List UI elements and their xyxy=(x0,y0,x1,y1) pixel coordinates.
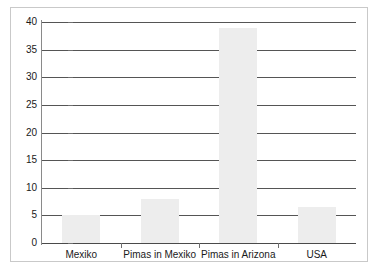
y-axis-tick-label: 0 xyxy=(31,238,37,248)
gridline xyxy=(42,133,356,134)
x-axis-category-label: Mexiko xyxy=(42,249,121,260)
plot-area: 0510152025303540 xyxy=(42,22,356,243)
y-axis-tick xyxy=(68,50,73,51)
y-axis-tick-label: 30 xyxy=(26,72,37,82)
bar xyxy=(219,28,257,243)
chart-figure: 0510152025303540 MexikoPimas in MexikoPi… xyxy=(10,7,368,262)
y-axis-tick-label: 5 xyxy=(31,210,37,220)
x-axis-category-label: Pimas in Mexiko xyxy=(121,249,200,260)
y-axis-tick-label: 15 xyxy=(26,155,37,165)
y-axis-tick xyxy=(68,160,73,161)
x-axis-category-label: USA xyxy=(278,249,357,260)
x-axis-tick xyxy=(278,243,279,248)
y-axis-tick xyxy=(68,77,73,78)
bar xyxy=(141,199,179,243)
y-axis-tick xyxy=(68,22,73,23)
x-axis-category-label: Pimas in Arizona xyxy=(199,249,278,260)
y-axis-tick-label: 25 xyxy=(26,100,37,110)
gridline xyxy=(42,105,356,106)
gridline xyxy=(42,77,356,78)
y-axis-tick-label: 20 xyxy=(26,128,37,138)
gridline xyxy=(42,22,356,23)
y-axis-tick-label: 10 xyxy=(26,183,37,193)
gridline xyxy=(42,188,356,189)
bar xyxy=(298,207,336,243)
x-axis-categories: MexikoPimas in MexikoPimas in ArizonaUSA xyxy=(42,243,356,263)
y-axis-tick xyxy=(68,133,73,134)
x-axis-tick xyxy=(199,243,200,248)
y-axis-tick-label: 40 xyxy=(26,17,37,27)
y-axis-tick xyxy=(68,105,73,106)
x-axis-tick xyxy=(121,243,122,248)
y-axis-tick-label: 35 xyxy=(26,45,37,55)
y-axis-tick xyxy=(68,188,73,189)
gridline xyxy=(42,160,356,161)
gridline xyxy=(42,50,356,51)
bar xyxy=(62,215,100,243)
